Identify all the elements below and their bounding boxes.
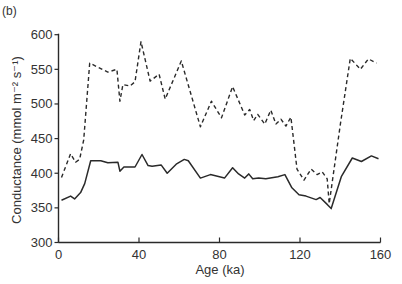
x-tick-label: 160	[370, 247, 392, 262]
y-tick-label: 550	[31, 62, 53, 77]
y-axis-label: Conductance (mmol m⁻² s⁻¹)	[9, 56, 24, 224]
series-line-solid	[62, 155, 379, 209]
y-tick-label: 400	[31, 166, 53, 181]
y-tick-label: 450	[31, 131, 53, 146]
line-chart: 30035040045050055060004080120160	[0, 0, 402, 284]
data-series	[62, 42, 379, 209]
y-tick-label: 500	[31, 96, 53, 111]
x-tick-label: 80	[212, 247, 226, 262]
y-tick-label: 300	[31, 235, 53, 250]
series-line-dashed	[62, 42, 377, 204]
x-tick-label: 40	[132, 247, 146, 262]
x-tick-label: 0	[55, 247, 62, 262]
y-tick-label: 350	[31, 200, 53, 215]
x-tick-label: 120	[289, 247, 311, 262]
y-tick-label: 600	[31, 27, 53, 42]
x-axis-label: Age (ka)	[0, 262, 402, 277]
